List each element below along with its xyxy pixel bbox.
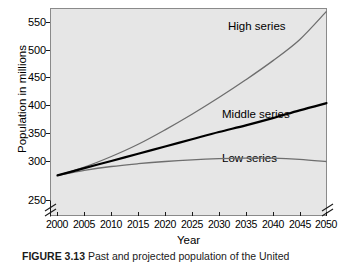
series-line-low bbox=[58, 158, 327, 175]
series-line-high bbox=[58, 11, 327, 175]
x-axis-break-icon bbox=[322, 204, 333, 216]
caption-label: FIGURE 3.13 bbox=[22, 250, 85, 262]
figure-caption: FIGURE 3.13 Past and projected populatio… bbox=[22, 250, 352, 262]
caption-text: Past and projected population of the Uni… bbox=[88, 250, 289, 262]
